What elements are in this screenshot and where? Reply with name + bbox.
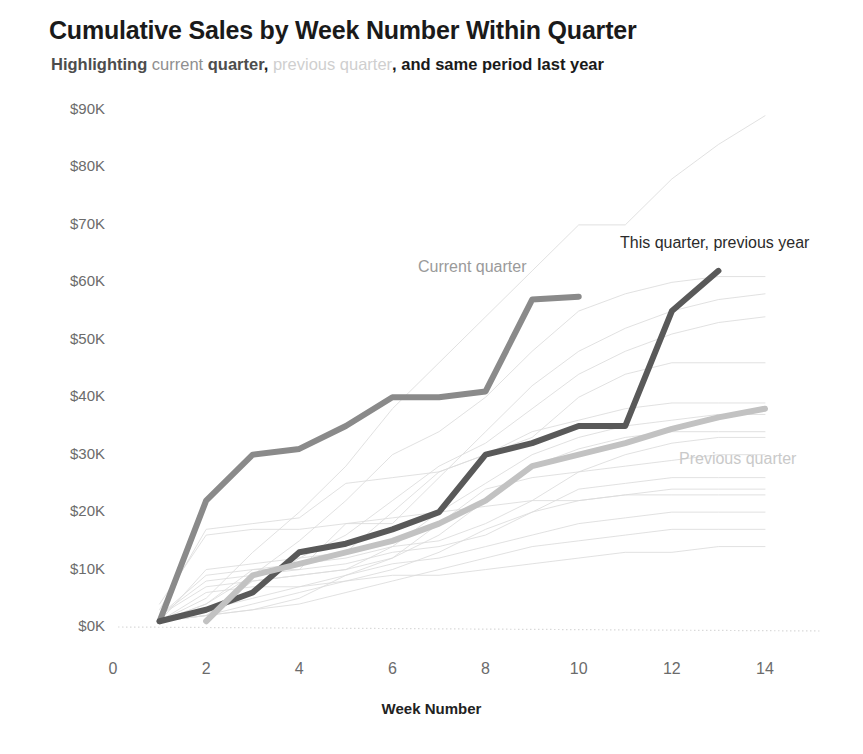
x-axis-title: Week Number [0,700,863,717]
y-axis-tick-label: $70K [35,215,105,232]
y-axis-tick-label: $40K [35,387,105,404]
annotation-previous-quarter: Previous quarter [679,450,796,468]
subtitle-segment-tail: , and same period last year [392,55,604,73]
x-axis-tick-label: 4 [279,660,319,678]
y-axis-tick-label: $60K [35,272,105,289]
y-axis-tick-label: $0K [35,617,105,634]
series-line-highlighted [160,297,579,622]
x-axis-tick-label: 14 [745,660,785,678]
x-axis-tick-label: 10 [559,660,599,678]
plot-area [0,0,863,754]
x-axis-tick-label: 8 [466,660,506,678]
y-axis-tick-label: $80K [35,157,105,174]
y-axis-tick-label: $20K [35,502,105,519]
y-axis-tick-label: $90K [35,100,105,117]
annotation-previous-year: This quarter, previous year [620,234,809,252]
y-axis-tick-label: $10K [35,560,105,577]
x-axis-baseline [118,627,820,631]
subtitle-segment-comma1: , [264,55,273,73]
y-axis-tick-label: $50K [35,330,105,347]
x-axis-tick-label: 0 [93,660,133,678]
subtitle-segment-highlighting: Highlighting [51,55,152,73]
annotation-current-quarter: Current quarter [418,258,527,276]
chart-subtitle: Highlighting current quarter, previous q… [51,55,604,74]
chart-title: Cumulative Sales by Week Number Within Q… [49,16,637,45]
x-axis-tick-label: 2 [186,660,226,678]
subtitle-segment-current: current [152,55,203,73]
subtitle-segment-previous-quarter: previous quarter [273,55,392,73]
series-line-background [160,116,765,622]
x-axis-tick-label: 6 [372,660,412,678]
x-axis-tick-label: 12 [652,660,692,678]
subtitle-segment-quarter: quarter [203,55,264,73]
series-line-highlighted [160,271,719,621]
chart-container: Cumulative Sales by Week Number Within Q… [0,0,863,754]
y-axis-tick-label: $30K [35,445,105,462]
